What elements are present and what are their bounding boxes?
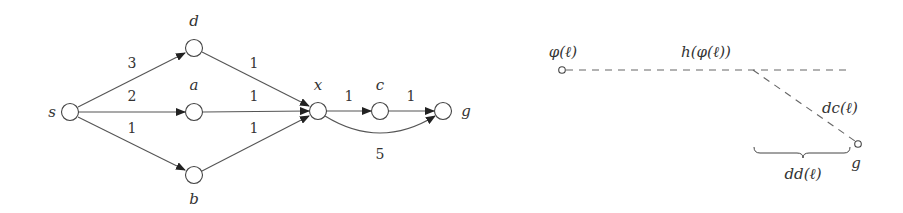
node-d bbox=[186, 40, 203, 57]
point-g bbox=[855, 141, 862, 148]
node-s bbox=[62, 104, 79, 121]
label-dd: dd(ℓ) bbox=[784, 165, 821, 183]
shortest-path-graph: s d a b x c g 3 2 1 1 1 1 1 1 5 bbox=[48, 12, 471, 208]
weight-s-d: 3 bbox=[128, 55, 137, 71]
node-c bbox=[372, 103, 389, 120]
label-h-phi: h(φ(ℓ)) bbox=[681, 43, 731, 61]
node-a bbox=[186, 104, 203, 121]
edge-a-x bbox=[203, 111, 309, 112]
weight-d-x: 1 bbox=[250, 55, 259, 71]
brace-dd bbox=[754, 147, 850, 158]
weight-x-g: 5 bbox=[376, 146, 385, 162]
weight-b-x: 1 bbox=[250, 120, 259, 136]
weight-s-b: 1 bbox=[128, 120, 137, 136]
node-x bbox=[310, 103, 327, 120]
node-label-g: g bbox=[461, 102, 471, 120]
node-label-d: d bbox=[189, 12, 199, 30]
node-b bbox=[186, 167, 203, 184]
node-label-s: s bbox=[48, 103, 56, 121]
weight-x-c: 1 bbox=[345, 88, 354, 104]
node-label-c: c bbox=[376, 76, 385, 94]
node-label-x: x bbox=[314, 76, 323, 94]
label-phi: φ(ℓ) bbox=[549, 43, 578, 61]
weight-a-x: 1 bbox=[250, 88, 259, 104]
weight-c-g: 1 bbox=[407, 88, 416, 104]
diagram-canvas: s d a b x c g 3 2 1 1 1 1 1 1 5 φ(ℓ) h(φ… bbox=[0, 0, 903, 213]
label-g: g bbox=[851, 154, 861, 172]
node-label-b: b bbox=[189, 190, 199, 208]
point-phi bbox=[559, 67, 566, 74]
weight-s-a: 2 bbox=[128, 88, 137, 104]
node-g bbox=[435, 103, 452, 120]
label-dc: dc(ℓ) bbox=[822, 99, 858, 117]
distance-decomposition-figure: φ(ℓ) h(φ(ℓ)) dc(ℓ) dd(ℓ) g bbox=[549, 43, 862, 183]
node-label-a: a bbox=[190, 76, 199, 94]
